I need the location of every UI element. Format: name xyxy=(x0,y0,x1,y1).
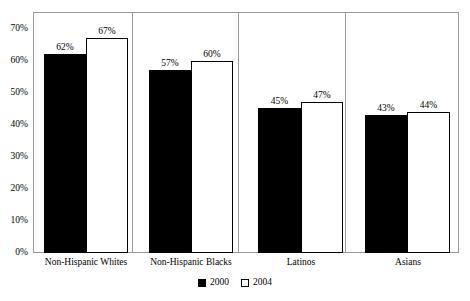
bar-value-label: 57% xyxy=(149,58,191,68)
chart-legend: 2000 2004 xyxy=(0,278,470,288)
bar-value-label: 67% xyxy=(86,26,128,36)
bar-2000-non-hispanic-blacks xyxy=(149,70,191,253)
bar-2004-non-hispanic-whites xyxy=(86,38,128,253)
y-axis-tick-label: 30% xyxy=(11,152,28,162)
y-axis-tick-label: 70% xyxy=(11,24,28,34)
y-axis: 70% 60% 50% 40% 30% 20% 10% 0% xyxy=(0,0,33,301)
legend-label: 2004 xyxy=(253,278,272,288)
bar-2004-asians xyxy=(407,112,450,253)
bar-value-label: 47% xyxy=(301,90,343,100)
bar-value-label: 43% xyxy=(365,103,407,113)
x-axis-category-label: Asians xyxy=(348,257,468,268)
y-axis-tick-label: 40% xyxy=(11,120,28,130)
legend-swatch-hollow-icon xyxy=(241,279,249,287)
legend-label: 2000 xyxy=(210,278,229,288)
bar-value-label: 45% xyxy=(258,96,301,106)
group-divider xyxy=(345,13,346,253)
bar-value-label: 60% xyxy=(191,49,233,59)
bar-2000-latinos xyxy=(258,108,301,253)
x-axis-category-label: Latinos xyxy=(241,257,361,268)
x-axis-category-label: Non-Hispanic Whites xyxy=(26,257,146,268)
bar-2000-asians xyxy=(365,115,407,253)
y-axis-tick-label: 10% xyxy=(11,216,28,226)
bar-value-label: 62% xyxy=(44,42,86,52)
y-axis-tick-label: 20% xyxy=(11,184,28,194)
bar-2000-non-hispanic-whites xyxy=(44,54,86,253)
bar-2004-non-hispanic-blacks xyxy=(191,61,233,253)
group-divider xyxy=(238,13,239,253)
bar-chart: 70% 60% 50% 40% 30% 20% 10% 0% 62% 67% 5… xyxy=(0,0,470,301)
y-axis-tick-label: 60% xyxy=(11,56,28,66)
group-divider xyxy=(132,13,133,253)
bar-2004-latinos xyxy=(301,102,343,253)
legend-item-2000: 2000 xyxy=(198,278,229,288)
x-axis-category-label: Non-Hispanic Blacks xyxy=(131,257,251,268)
legend-swatch-filled-icon xyxy=(198,279,206,287)
y-axis-tick-label: 50% xyxy=(11,88,28,98)
bar-value-label: 44% xyxy=(407,100,450,110)
legend-item-2004: 2004 xyxy=(241,278,272,288)
